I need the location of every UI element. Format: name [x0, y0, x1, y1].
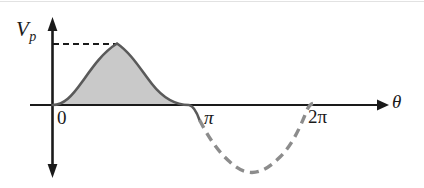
x-tick-label-two-pi: 2π — [308, 107, 327, 126]
x-axis-arrowhead-icon — [377, 100, 389, 111]
positive-half-cycle-fill — [53, 44, 190, 106]
y-axis-label-main: V — [16, 17, 29, 41]
y-axis-up-arrowhead-icon — [48, 17, 58, 31]
y-axis-label: Vp — [16, 19, 36, 44]
x-tick-label-zero: 0 — [57, 108, 67, 127]
x-tick-label-pi: π — [204, 108, 214, 127]
x-axis-label: θ — [392, 92, 401, 111]
y-axis-down-arrowhead-icon — [48, 164, 58, 178]
y-axis-label-subscript: p — [29, 29, 36, 44]
figure-canvas — [0, 0, 424, 188]
sine-wave-figure: Vp θ 0 π 2π — [0, 0, 424, 188]
negative-half-cycle-dashed-curve — [200, 104, 314, 173]
